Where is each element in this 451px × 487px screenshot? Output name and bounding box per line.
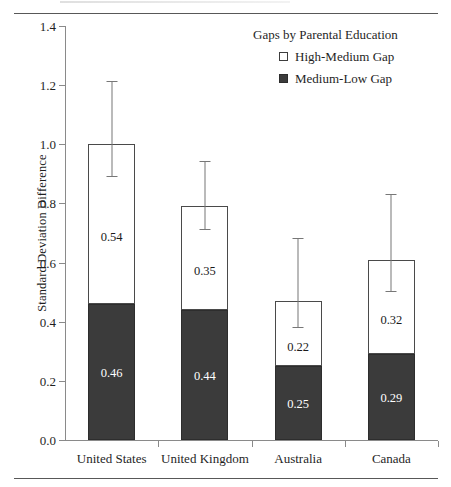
filled-square-icon xyxy=(279,74,288,83)
x-axis-label: Canada xyxy=(372,452,411,465)
bar-group[interactable]: 0.250.22 xyxy=(275,26,322,440)
bar-value-label: 0.44 xyxy=(182,370,227,383)
bar-value-label: 0.25 xyxy=(276,398,321,411)
bar-group[interactable]: 0.290.32 xyxy=(368,26,415,440)
y-axis-tick-label: 0.4 xyxy=(40,315,56,328)
legend-entry[interactable]: High-Medium Gap xyxy=(279,50,443,63)
error-bar-cap-upper xyxy=(386,194,397,195)
x-axis-label: Australia xyxy=(274,452,322,465)
error-bar-line xyxy=(298,239,299,328)
y-axis-tick-label: 1.4 xyxy=(40,20,56,33)
page-rule-bottom xyxy=(14,478,438,479)
y-axis-tick-label: 1.2 xyxy=(40,79,56,92)
bar-value-label: 0.54 xyxy=(89,231,134,244)
bar-segment-medium-low-gap[interactable]: 0.29 xyxy=(368,354,415,440)
error-bar-cap-lower xyxy=(199,229,210,230)
bar-segment-medium-low-gap[interactable]: 0.44 xyxy=(181,310,228,440)
bar-value-label: 0.46 xyxy=(89,367,134,380)
x-axis-tick xyxy=(345,441,346,447)
x-axis-tick xyxy=(158,441,159,447)
x-axis-label: United States xyxy=(77,452,147,465)
legend-title: Gaps by Parental Education xyxy=(253,28,443,41)
error-bar-cap-lower xyxy=(293,327,304,328)
bar-group[interactable]: 0.440.35 xyxy=(181,26,228,440)
legend-entry-label: Medium-Low Gap xyxy=(295,72,392,85)
error-bar-cap-upper xyxy=(106,81,117,82)
bar-segment-medium-low-gap[interactable]: 0.25 xyxy=(275,366,322,440)
bar-value-label: 0.35 xyxy=(182,265,227,278)
bar-value-label: 0.22 xyxy=(276,341,321,354)
legend-entry-label: High-Medium Gap xyxy=(295,50,394,63)
chart-legend: Gaps by Parental Education High-Medium G… xyxy=(253,28,443,85)
x-axis-tick xyxy=(252,441,253,447)
error-bar-cap-upper xyxy=(293,238,304,239)
error-bar-line xyxy=(111,82,112,177)
y-axis-tick-label: 0.0 xyxy=(40,434,56,447)
error-bar-line xyxy=(204,162,205,230)
legend-entries: High-Medium GapMedium-Low Gap xyxy=(253,50,443,85)
bar-group[interactable]: 0.460.54 xyxy=(88,26,135,440)
error-bar-cap-lower xyxy=(106,176,117,177)
bar-value-label: 0.32 xyxy=(369,314,414,327)
chart-page: Standard Deviation Difference 0.00.20.40… xyxy=(0,0,451,487)
y-axis-tick-label: 0.8 xyxy=(40,197,56,210)
error-bar-line xyxy=(391,195,392,293)
y-axis-title: Standard Deviation Difference xyxy=(35,154,50,312)
bar-segment-medium-low-gap[interactable]: 0.46 xyxy=(88,304,135,440)
page-rule-top xyxy=(14,13,438,14)
legend-entry[interactable]: Medium-Low Gap xyxy=(279,72,443,85)
y-axis-title-container: Standard Deviation Difference xyxy=(8,26,28,440)
scan-artifact-top xyxy=(60,1,290,3)
y-axis-tick-label: 0.2 xyxy=(40,374,56,387)
x-axis-ticks xyxy=(65,441,438,448)
y-axis-tick-label: 0.6 xyxy=(40,256,56,269)
plot-area: 0.460.540.440.350.250.220.290.32 xyxy=(65,26,438,440)
error-bar-cap-lower xyxy=(386,291,397,292)
error-bar-cap-upper xyxy=(199,161,210,162)
x-axis-tick xyxy=(438,441,439,447)
bar-value-label: 0.29 xyxy=(369,392,414,405)
y-axis-tick-label: 1.0 xyxy=(40,138,56,151)
x-axis-label: United Kingdom xyxy=(161,452,249,465)
open-square-icon xyxy=(279,52,288,61)
